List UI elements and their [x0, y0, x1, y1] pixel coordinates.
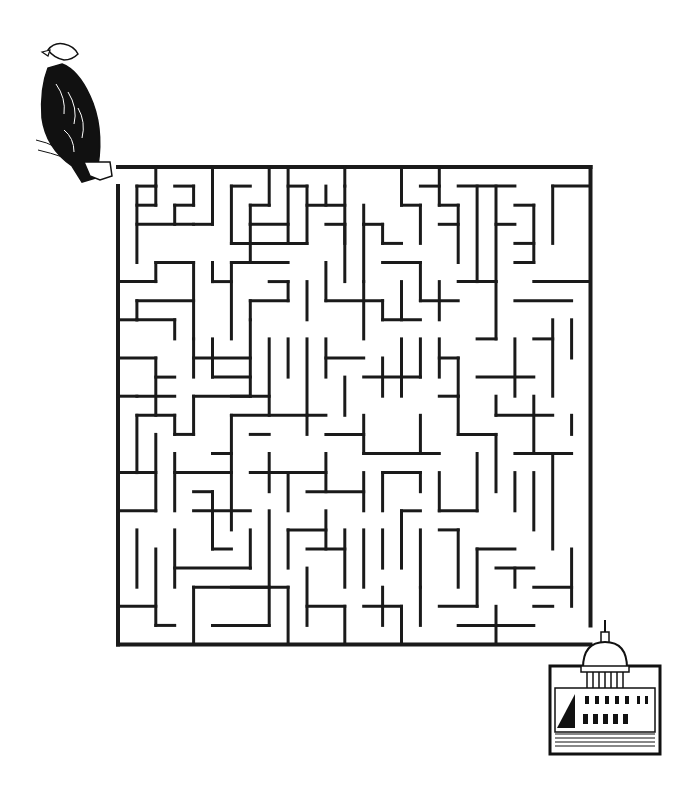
us-capitol-building-icon [545, 618, 663, 758]
maze-walls [118, 167, 591, 645]
bald-eagle-icon [34, 38, 120, 188]
